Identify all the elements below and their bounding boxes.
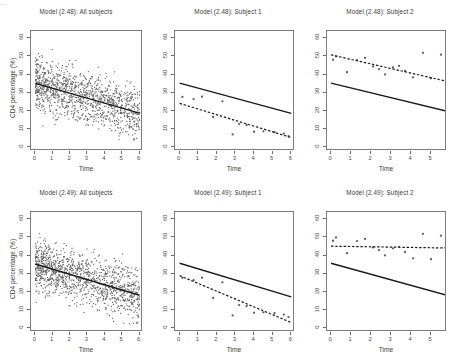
panel-p6: Model (2.49): Subject 201020304050600123… xyxy=(304,189,456,362)
y-tickmark xyxy=(171,110,174,111)
y-tick-label: 20 xyxy=(162,104,168,116)
x-tickmark xyxy=(330,151,331,154)
x-axis-label: Time xyxy=(174,165,294,172)
observation-points xyxy=(181,276,289,318)
x-tickmark xyxy=(234,151,235,154)
y-tick-label: 10 xyxy=(18,122,24,134)
observation-points xyxy=(181,95,289,137)
x-tick-label: 3 xyxy=(79,155,93,161)
y-tick-label: 10 xyxy=(314,122,320,134)
x-tick-label: 0 xyxy=(172,155,186,161)
panel-p2: Model (2.48): Subject 101020304050600123… xyxy=(152,8,304,189)
x-tick-label: 4 xyxy=(403,336,417,342)
x-tick-label: 6 xyxy=(132,336,146,342)
y-tick-label: 0 xyxy=(162,321,168,333)
plot-area xyxy=(326,30,446,150)
x-tickmark xyxy=(253,332,254,335)
y-tick-label: 50 xyxy=(314,230,320,242)
scatter-points xyxy=(35,49,140,141)
subject-fit-line xyxy=(331,55,446,82)
y-tickmark xyxy=(27,255,30,256)
y-tick-label: 40 xyxy=(162,67,168,79)
x-tick-label: 4 xyxy=(97,336,111,342)
x-tick-label: 6 xyxy=(132,155,146,161)
figure-canvas: — Model (2.48): All subjects010203040506… xyxy=(0,0,457,362)
y-tickmark xyxy=(171,273,174,274)
y-tickmark xyxy=(323,74,326,75)
y-tick-label: 40 xyxy=(18,248,24,260)
y-tick-label: 40 xyxy=(314,248,320,260)
y-tickmark xyxy=(171,146,174,147)
y-tickmark xyxy=(323,236,326,237)
plot-area xyxy=(30,30,142,150)
y-tickmark xyxy=(171,128,174,129)
y-tick-label: 20 xyxy=(18,104,24,116)
plot-area xyxy=(30,211,142,331)
x-tick-label: 2 xyxy=(209,336,223,342)
y-tick-label: 60 xyxy=(314,212,320,224)
x-tickmark xyxy=(216,332,217,335)
y-tickmark xyxy=(323,255,326,256)
population-fit-line xyxy=(180,263,292,297)
x-tick-label: 2 xyxy=(363,155,377,161)
x-tick-label: 1 xyxy=(190,155,204,161)
x-tickmark xyxy=(370,332,371,335)
x-tick-label: 4 xyxy=(403,155,417,161)
x-tick-label: 1 xyxy=(45,155,59,161)
x-tickmark xyxy=(104,332,105,335)
x-tick-label: 0 xyxy=(323,155,337,161)
x-tick-label: 1 xyxy=(45,336,59,342)
y-tick-label: 50 xyxy=(314,49,320,61)
x-tickmark xyxy=(179,332,180,335)
y-tick-label: 10 xyxy=(18,303,24,315)
x-tickmark xyxy=(86,332,87,335)
y-axis-label: CD4 percentage (%) xyxy=(9,239,16,299)
y-tick-label: 0 xyxy=(18,140,24,152)
subject-fit-line xyxy=(331,246,446,248)
y-tickmark xyxy=(27,92,30,93)
plot-svg xyxy=(175,31,294,150)
x-tickmark xyxy=(139,151,140,154)
plot-area xyxy=(174,30,294,150)
x-tick-label: 5 xyxy=(423,155,437,161)
x-tick-label: 0 xyxy=(27,155,41,161)
x-tick-label: 5 xyxy=(114,336,128,342)
x-axis-label: Time xyxy=(30,165,142,172)
x-tickmark xyxy=(197,151,198,154)
x-tick-label: 4 xyxy=(97,155,111,161)
x-tickmark xyxy=(290,332,291,335)
x-axis-label: Time xyxy=(174,346,294,353)
x-tick-label: 5 xyxy=(265,336,279,342)
y-tick-label: 60 xyxy=(314,31,320,43)
panel-title: Model (2.49): Subject 2 xyxy=(304,189,456,196)
x-tickmark xyxy=(52,332,53,335)
panel-title: Model (2.48): All subjects xyxy=(0,8,152,15)
x-tickmark xyxy=(34,332,35,335)
panel-p4: Model (2.49): All subjects01020304050600… xyxy=(0,189,152,362)
x-tickmark xyxy=(104,151,105,154)
y-tick-label: 40 xyxy=(314,67,320,79)
x-tickmark xyxy=(430,332,431,335)
x-tickmark xyxy=(290,151,291,154)
y-axis-label: CD4 percentage (%) xyxy=(9,58,16,118)
panel-title: Model (2.48): Subject 1 xyxy=(152,8,304,15)
y-tickmark xyxy=(323,291,326,292)
y-tick-label: 0 xyxy=(18,321,24,333)
y-tick-label: 40 xyxy=(18,67,24,79)
x-axis-label: Time xyxy=(326,165,446,172)
x-tick-label: 0 xyxy=(172,336,186,342)
x-tickmark xyxy=(86,151,87,154)
x-tickmark xyxy=(330,332,331,335)
y-tick-label: 30 xyxy=(314,85,320,97)
y-tick-label: 60 xyxy=(162,212,168,224)
y-tickmark xyxy=(27,55,30,56)
x-tick-label: 3 xyxy=(227,155,241,161)
x-tickmark xyxy=(121,332,122,335)
y-tickmark xyxy=(27,128,30,129)
y-tick-label: 50 xyxy=(162,49,168,61)
plot-svg xyxy=(327,212,446,331)
y-tick-label: 20 xyxy=(18,285,24,297)
panel-p3: Model (2.48): Subject 201020304050600123… xyxy=(304,8,456,189)
y-tickmark xyxy=(171,37,174,38)
y-tick-label: 10 xyxy=(162,122,168,134)
